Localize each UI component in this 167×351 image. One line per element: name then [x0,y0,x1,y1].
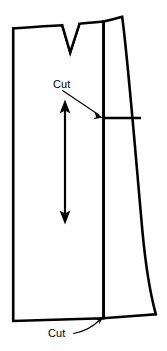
cut-lower-leader-line [74,320,101,334]
pattern-drawing [0,0,167,351]
side-panel-outline [104,17,156,318]
main-body-outline [13,22,103,322]
cut-label-lower: Cut [48,327,65,339]
pattern-diagram: Cut Cut [0,0,167,351]
cut-label-upper: Cut [53,78,70,90]
